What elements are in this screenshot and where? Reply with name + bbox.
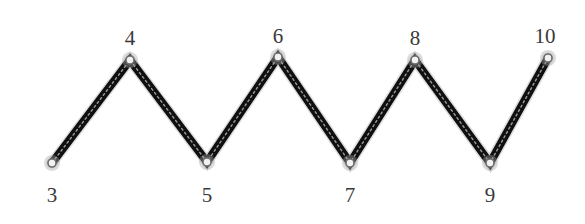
vertex-marker-5[interactable] <box>203 158 211 166</box>
vertex-label-6: 6 <box>273 26 284 47</box>
vertex-label-10: 10 <box>535 26 556 47</box>
vertex-label-5: 5 <box>202 185 213 206</box>
zigzag-figure: 345678910 <box>0 0 585 224</box>
vertex-marker-7[interactable] <box>346 159 354 167</box>
vertex-label-4: 4 <box>125 28 136 49</box>
vertex-marker-6[interactable] <box>274 53 282 61</box>
zigzag-diagram-svg <box>0 0 585 224</box>
vertex-label-8: 8 <box>410 28 421 49</box>
vertex-marker-4[interactable] <box>126 56 134 64</box>
vertex-label-7: 7 <box>345 185 356 206</box>
vertex-marker-10[interactable] <box>544 54 552 62</box>
vertex-label-9: 9 <box>485 185 496 206</box>
vertex-marker-9[interactable] <box>486 159 494 167</box>
vertex-marker-3[interactable] <box>48 159 56 167</box>
vertex-marker-8[interactable] <box>411 56 419 64</box>
vertex-label-3: 3 <box>47 185 58 206</box>
